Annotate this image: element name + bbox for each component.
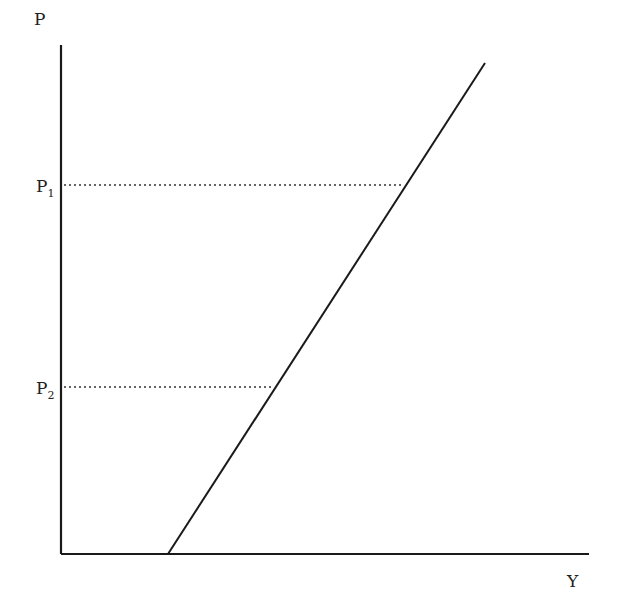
- p2-label-sub: 2: [47, 389, 54, 402]
- axis-label-y: Y: [566, 571, 579, 591]
- p2-label: P2: [36, 378, 54, 402]
- diagram-figure: P P1 P2 Y: [0, 0, 622, 612]
- axis-label-p: P: [34, 9, 45, 29]
- supply-curve-line: [168, 63, 485, 554]
- p1-label: P1: [36, 176, 54, 200]
- p1-label-main: P: [36, 176, 47, 196]
- p1-label-sub: 1: [47, 187, 54, 200]
- p2-label-main: P: [36, 378, 47, 398]
